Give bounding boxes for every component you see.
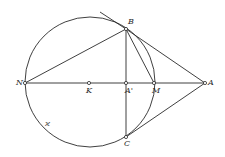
- label-circle-kappa: ϰ: [45, 120, 50, 128]
- point-n-marker: [23, 81, 26, 84]
- point-a-marker: [203, 81, 206, 84]
- segment-n-b: [25, 29, 126, 83]
- segment-b-a: [126, 29, 205, 83]
- label-point-n: N: [16, 79, 23, 87]
- point-a1-marker: [124, 81, 127, 84]
- diagram-svg: [0, 0, 225, 157]
- point-k-marker: [87, 81, 90, 84]
- tangent-line-at-b: [100, 12, 126, 29]
- label-point-c: C: [124, 140, 130, 148]
- segments: [25, 29, 205, 137]
- geometry-diagram: N K A' M A B C ϰ: [0, 0, 225, 157]
- point-m-marker: [152, 81, 155, 84]
- label-point-m: M: [152, 87, 160, 95]
- label-point-a: A: [208, 79, 214, 87]
- point-b-marker: [124, 27, 127, 30]
- label-point-b: B: [128, 18, 134, 26]
- label-point-a-prime: A': [125, 87, 133, 95]
- label-point-k: K: [86, 87, 92, 95]
- segment-c-a: [126, 83, 205, 137]
